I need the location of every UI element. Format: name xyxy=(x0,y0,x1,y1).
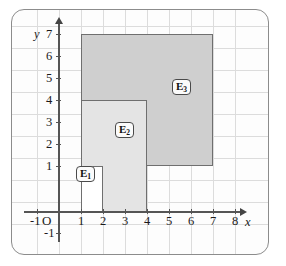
y-tick xyxy=(56,56,61,57)
x-axis xyxy=(24,211,241,213)
region-label-E3-sub: 3 xyxy=(183,85,187,94)
y-tick-label-4: 4 xyxy=(46,93,52,108)
region-label-E2-sub: 2 xyxy=(126,128,130,137)
y-tick xyxy=(56,166,61,167)
origin-label: O xyxy=(42,213,51,229)
figure-canvas: -1 1 2 3 4 5 6 7 8 7 6 5 4 3 2 1 -1 y x … xyxy=(0,0,286,266)
y-tick-label-5: 5 xyxy=(46,71,52,86)
x-tick-label-1: 1 xyxy=(78,214,84,229)
x-tick-label-8: 8 xyxy=(232,214,238,229)
x-tick-label-7: 7 xyxy=(210,214,216,229)
x-tick-label-3: 3 xyxy=(122,214,128,229)
y-tick-label-2: 2 xyxy=(46,137,52,152)
x-tick-label-6: 6 xyxy=(188,214,194,229)
y-tick-label-1: 1 xyxy=(46,159,52,174)
x-axis-label: x xyxy=(245,215,251,230)
region-label-E2: E2 xyxy=(115,122,134,138)
region-label-E1-sub: 1 xyxy=(87,172,91,181)
x-tick-label-5: 5 xyxy=(166,214,172,229)
y-tick xyxy=(56,233,61,234)
figure-frame: -1 1 2 3 4 5 6 7 8 7 6 5 4 3 2 1 -1 y x … xyxy=(11,9,269,255)
region-label-E1: E1 xyxy=(76,166,95,182)
region-label-E3: E3 xyxy=(172,79,191,95)
y-tick-label-3: 3 xyxy=(46,115,52,130)
x-tick-label-4: 4 xyxy=(144,214,150,229)
x-tick-label-2: 2 xyxy=(100,214,106,229)
y-tick xyxy=(56,34,61,35)
y-axis-arrow-icon xyxy=(55,17,63,24)
y-axis-label: y xyxy=(34,27,40,42)
y-tick-label-6: 6 xyxy=(46,49,52,64)
y-tick xyxy=(56,78,61,79)
y-tick xyxy=(56,100,61,101)
y-tick xyxy=(56,144,61,145)
y-tick xyxy=(56,122,61,123)
x-tick-label--1: -1 xyxy=(30,214,40,229)
y-tick-label-7: 7 xyxy=(46,27,52,42)
